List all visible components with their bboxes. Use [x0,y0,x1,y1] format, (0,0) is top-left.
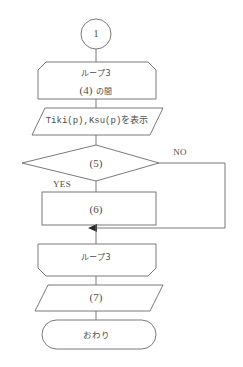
output-parallelogram-shape [35,285,163,311]
connector-circle-shape [81,19,111,49]
terminator-stadium-shape [42,320,156,349]
display-parallelogram-shape [32,108,163,135]
process-rectangle-shape [42,192,156,225]
loop-start-shape [38,62,156,99]
loop-end-shape [38,244,156,276]
decision-diamond-shape [22,145,159,181]
flowchart-canvas [0,0,243,367]
flowchart-diagram: 1 ループ3 (4) の間 Tiki(p),Ksu(p)を表示 (5) YES … [0,0,243,367]
